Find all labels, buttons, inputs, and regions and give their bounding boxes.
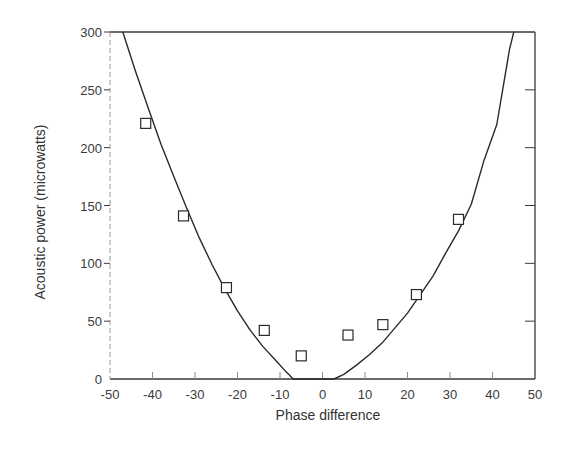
axis-ticks: -50-40-30-20-100102030405005010015020025… <box>80 25 542 402</box>
x-tick-label: 50 <box>528 387 542 402</box>
data-point-marker <box>411 290 421 300</box>
data-point-marker <box>141 118 151 128</box>
data-point-marker <box>343 330 353 340</box>
fitted-curve <box>123 32 514 379</box>
x-tick-label: -40 <box>143 387 162 402</box>
data-point-marker <box>259 325 269 335</box>
data-point-marker <box>179 211 189 221</box>
x-tick-label: -20 <box>228 387 247 402</box>
x-tick-label: 40 <box>485 387 499 402</box>
chart: -50-40-30-20-100102030405005010015020025… <box>0 0 571 449</box>
data-markers <box>141 118 464 360</box>
data-point-marker <box>221 283 231 293</box>
x-tick-label: 10 <box>358 387 372 402</box>
y-tick-label: 200 <box>80 141 102 156</box>
curve-path <box>123 32 514 379</box>
y-axis-title: Acoustic power (microwatts) <box>32 124 48 299</box>
data-point-marker <box>378 320 388 330</box>
y-tick-label: 300 <box>80 25 102 40</box>
y-tick-label: 0 <box>95 372 102 387</box>
x-tick-label: 20 <box>400 387 414 402</box>
data-point-marker <box>296 351 306 361</box>
y-tick-label: 100 <box>80 256 102 271</box>
x-tick-label: -10 <box>271 387 290 402</box>
x-tick-label: -50 <box>101 387 120 402</box>
y-tick-label: 150 <box>80 199 102 214</box>
data-point-marker <box>454 214 464 224</box>
x-tick-label: 0 <box>319 387 326 402</box>
y-tick-label: 250 <box>80 83 102 98</box>
y-tick-label: 50 <box>88 314 102 329</box>
x-tick-label: 30 <box>443 387 457 402</box>
x-axis-title: Phase difference <box>276 407 381 423</box>
x-tick-label: -30 <box>186 387 205 402</box>
